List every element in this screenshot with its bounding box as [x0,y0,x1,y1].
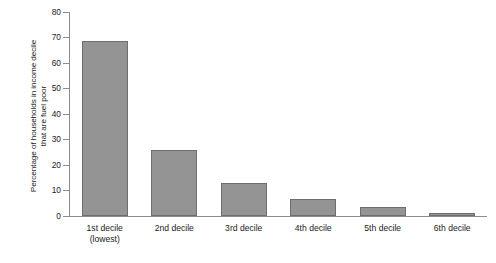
y-axis-tick-label: 50 [43,84,61,92]
y-axis-tick [63,165,69,166]
bar [360,207,406,216]
y-axis-tick-label: 70 [43,33,61,41]
bar-chart-figure: Percentage of households in income decil… [0,0,496,263]
x-axis-spine [69,216,487,217]
bar [429,213,475,216]
y-axis-tick-label: 40 [43,110,61,118]
x-axis-tick-label: 4th decile [279,223,349,234]
y-axis-title-line-1: Percentage of households in income decil… [29,40,39,192]
y-axis-spine [69,12,70,217]
y-axis-tick [63,37,69,38]
x-axis-tick-label: 6th decile [418,223,488,234]
y-axis-tick [63,216,69,217]
y-axis-tick-label: 20 [43,161,61,169]
y-axis-tick-label: 60 [43,59,61,67]
y-axis-tick [63,12,69,13]
bar [82,41,128,216]
y-axis-tick [63,63,69,64]
y-axis-tick [63,139,69,140]
bar [221,183,267,216]
bar [151,150,197,216]
x-axis-tick-label: 2nd decile [140,223,210,234]
y-axis-tick-label: 30 [43,135,61,143]
y-axis-tick [63,190,69,191]
y-axis-tick-label: 80 [43,8,61,16]
x-axis-tick-label: 3rd decile [209,223,279,234]
x-axis-tick-label: 5th decile [348,223,418,234]
y-axis-tick-label: 10 [43,186,61,194]
bar [290,199,336,216]
y-axis-tick [63,88,69,89]
y-axis-tick-label: 0 [43,212,61,220]
y-axis-tick [63,114,69,115]
x-axis-tick-label: 1st decile (lowest) [70,223,140,244]
